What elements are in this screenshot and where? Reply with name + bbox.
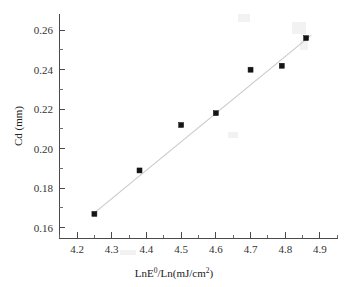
x-tick-label: 4.9 (313, 243, 327, 255)
x-tick-label: 4.8 (278, 243, 292, 255)
y-tick-label: 0.20 (34, 143, 54, 155)
data-point-marker (92, 211, 97, 216)
data-point-marker (179, 123, 184, 128)
x-tick-label: 4.2 (70, 243, 84, 255)
y-axis-title-text: Cd (mm) (12, 106, 25, 146)
data-point-marker (137, 168, 142, 173)
x-tick-label: 4.3 (105, 243, 119, 255)
artifact-patch (228, 132, 238, 138)
data-point-marker (213, 111, 218, 116)
y-tick-label: 0.18 (34, 182, 54, 194)
data-point-marker (304, 36, 309, 41)
x-tick-label: 4.7 (244, 243, 258, 255)
y-tick-label: 0.22 (34, 103, 53, 115)
y-tick-label: 0.24 (34, 64, 54, 76)
data-point-marker (248, 67, 253, 72)
x-axis-title: LnE0/Ln(mJ/cm2) (135, 266, 214, 280)
y-tick-label: 0.16 (34, 222, 54, 234)
x-tick-label: 4.5 (174, 243, 188, 255)
artifact-patch (292, 22, 306, 34)
artifact-patch (120, 250, 136, 255)
artifact-patch (238, 14, 250, 22)
x-axis-title-base: LnE (135, 267, 154, 279)
svg-text:LnE0/Ln(mJ/cm2): LnE0/Ln(mJ/cm2) (135, 266, 214, 280)
y-tick-label: 0.26 (34, 24, 54, 36)
chart-figure: 4.24.34.44.54.64.74.84.9 0.160.180.200.2… (0, 0, 348, 287)
x-tick-label: 4.4 (140, 243, 154, 255)
x-tick-label: 4.6 (209, 243, 223, 255)
data-point-marker (279, 63, 284, 68)
scatter-plot: 4.24.34.44.54.64.74.84.9 0.160.180.200.2… (0, 0, 348, 287)
y-axis-title: Cd (mm) (12, 106, 25, 146)
